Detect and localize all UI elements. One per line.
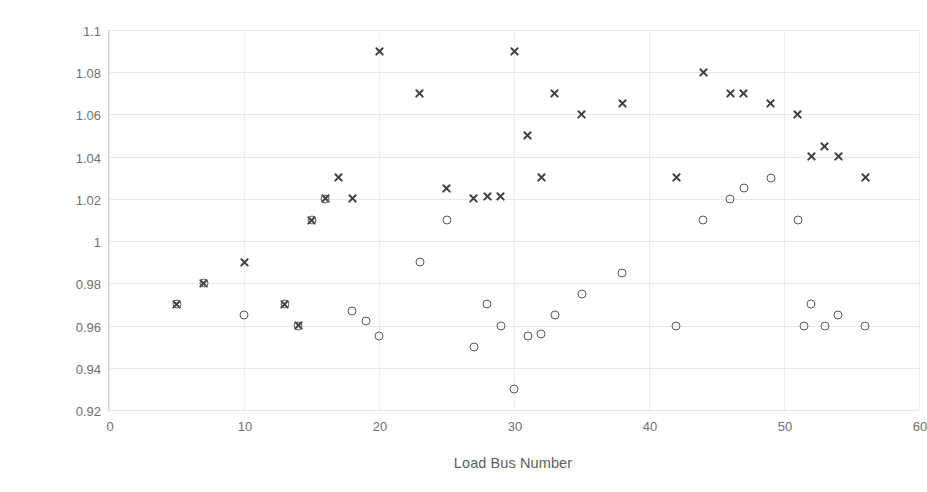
gridline-vertical: 10 <box>244 30 245 410</box>
data-point-cross <box>482 191 493 202</box>
x-axis-title: Load Bus Number <box>108 455 918 471</box>
x-tick-label: 30 <box>508 410 522 434</box>
y-tick-label: 1.02 <box>76 192 109 207</box>
data-point-cross <box>414 88 425 99</box>
y-tick-label: 0.96 <box>76 319 109 334</box>
data-point-circle <box>537 330 546 339</box>
data-point-cross <box>441 183 452 194</box>
x-tick-label: 60 <box>913 410 927 434</box>
y-tick-label: 0.92 <box>76 404 109 419</box>
y-tick-label: 0.94 <box>76 361 109 376</box>
y-tick-label: 1.1 <box>83 24 109 39</box>
y-tick-label: 0.98 <box>76 277 109 292</box>
data-point-circle <box>618 268 627 277</box>
data-point-circle <box>739 184 748 193</box>
x-tick-label: 20 <box>373 410 387 434</box>
data-point-cross <box>495 191 506 202</box>
data-point-cross <box>765 98 776 109</box>
data-point-cross <box>819 141 830 152</box>
x-tick-label: 50 <box>778 410 792 434</box>
data-point-circle <box>523 332 532 341</box>
gridline-vertical: 50 <box>784 30 785 410</box>
data-point-circle <box>699 216 708 225</box>
data-point-cross <box>738 88 749 99</box>
data-point-cross <box>617 98 628 109</box>
data-point-circle <box>550 311 559 320</box>
data-point-cross <box>536 172 547 183</box>
data-point-circle <box>577 289 586 298</box>
data-point-circle <box>442 216 451 225</box>
gridline-vertical: 30 <box>514 30 515 410</box>
x-tick-label: 10 <box>238 410 252 434</box>
data-point-circle <box>483 300 492 309</box>
data-point-cross <box>279 299 290 310</box>
data-point-cross <box>725 88 736 99</box>
data-point-circle <box>172 300 181 309</box>
y-tick-label: 1.06 <box>76 108 109 123</box>
data-point-cross <box>171 299 182 310</box>
y-tick-label: 1 <box>94 235 109 250</box>
data-point-circle <box>348 306 357 315</box>
gridline-vertical: 40 <box>649 30 650 410</box>
gridline-vertical: 20 <box>379 30 380 410</box>
data-point-cross <box>306 215 317 226</box>
gridline-vertical: 60 <box>919 30 920 410</box>
data-point-circle <box>766 173 775 182</box>
data-point-circle <box>280 300 289 309</box>
data-point-circle <box>415 258 424 267</box>
data-point-circle <box>307 216 316 225</box>
data-point-cross <box>671 172 682 183</box>
data-point-cross <box>333 172 344 183</box>
data-point-cross <box>522 130 533 141</box>
gridline-vertical: 0 <box>109 30 110 410</box>
data-point-circle <box>361 317 370 326</box>
data-point-cross <box>860 172 871 183</box>
data-point-circle <box>834 311 843 320</box>
y-tick-label: 1.04 <box>76 150 109 165</box>
data-point-circle <box>793 216 802 225</box>
x-tick-label: 0 <box>106 410 113 434</box>
data-point-cross <box>549 88 560 99</box>
y-tick-label: 1.08 <box>76 66 109 81</box>
plot-area: 0.920.940.960.9811.021.041.061.081.10102… <box>108 30 919 411</box>
x-tick-label: 40 <box>643 410 657 434</box>
data-point-circle <box>469 342 478 351</box>
data-point-circle <box>807 300 816 309</box>
